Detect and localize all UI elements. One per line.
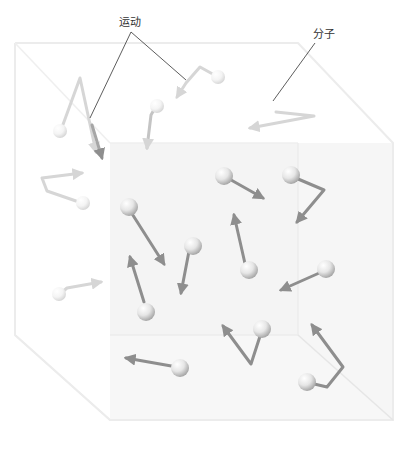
molecule-path	[177, 67, 218, 97]
molecule-ball	[253, 320, 271, 338]
molecular-motion-diagram: 运动 分子	[0, 0, 409, 453]
diagram-canvas	[0, 0, 409, 453]
leader-lines	[90, 32, 315, 118]
molecule-path	[60, 282, 101, 294]
molecule-ball	[240, 261, 258, 279]
molecule-path	[42, 173, 82, 201]
molecule-path	[250, 112, 314, 128]
molecule-path	[147, 108, 155, 148]
molecule-ball	[298, 373, 316, 391]
molecule-path	[61, 78, 96, 152]
molecule-ball	[76, 196, 90, 210]
label-molecule: 分子	[313, 25, 335, 41]
label-motion: 运动	[119, 13, 141, 29]
molecule-ball	[120, 198, 138, 216]
molecule-ball	[282, 166, 300, 184]
leader-molecule	[273, 43, 315, 101]
molecule-ball	[215, 167, 233, 185]
molecule-ball	[211, 70, 225, 84]
molecule-ball	[171, 359, 189, 377]
leader-motion-right	[131, 32, 186, 80]
molecule-ball	[52, 287, 66, 301]
molecule-ball	[317, 260, 335, 278]
edge-bottom-left	[15, 335, 110, 420]
molecule-ball	[150, 99, 164, 113]
leader-motion-left	[90, 32, 131, 118]
back-wall	[110, 143, 298, 335]
molecule-ball	[184, 237, 202, 255]
molecule-ball	[137, 303, 155, 321]
molecule-ball	[53, 124, 67, 138]
